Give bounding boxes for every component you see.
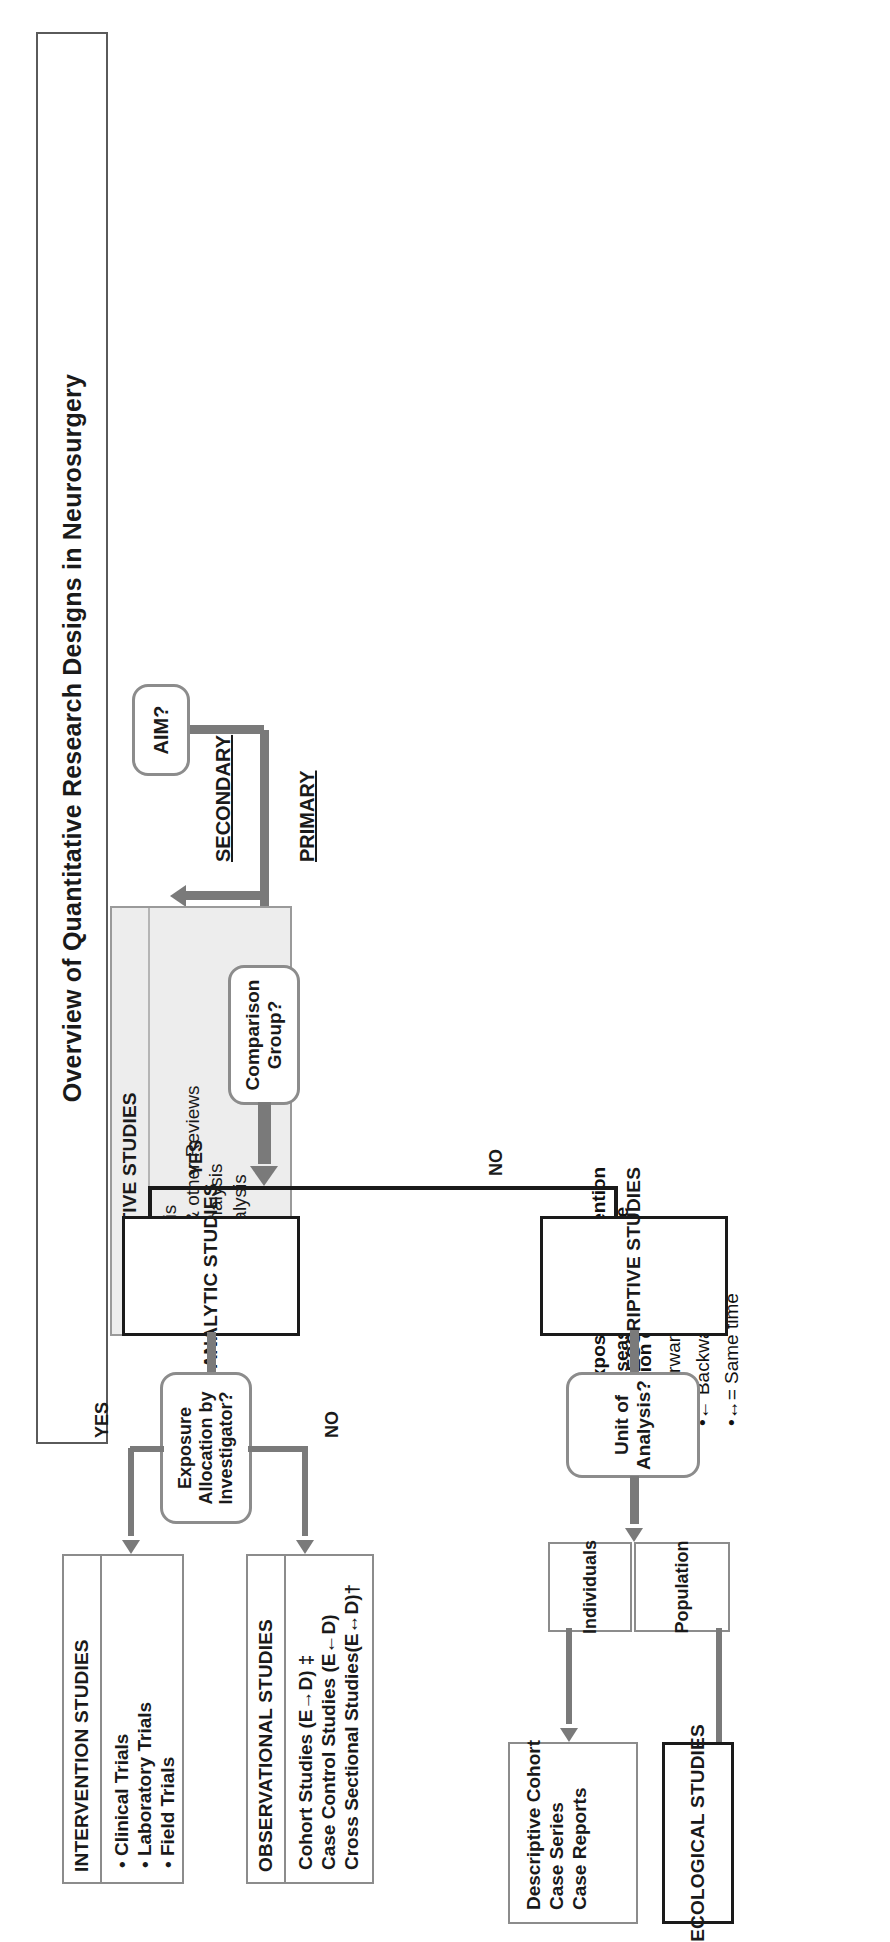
connector-analytic-exposure — [207, 1332, 216, 1374]
connector-individuals-h — [566, 1628, 572, 1724]
label-alloc-yes: YES — [92, 1402, 113, 1438]
observational-item: Cohort Studies (E→D) ‡ — [294, 1568, 317, 1870]
connector-aim-trunk — [190, 725, 264, 734]
node-comparison-group-label: Comparison Group? — [242, 976, 286, 1094]
connector-secondary-v — [186, 891, 264, 900]
arrow-individuals — [560, 1728, 578, 1742]
arrow-to-integrative — [170, 885, 186, 907]
branch-individuals[interactable]: Individuals — [548, 1542, 632, 1632]
node-unit-of-analysis-label: Unit of Analysis? — [611, 1380, 655, 1470]
connector-alloc-yes-v — [130, 1446, 164, 1452]
node-exposure-allocation[interactable]: Exposure Allocation by Investigator? — [160, 1372, 252, 1524]
connector-alloc-no-h — [302, 1448, 308, 1536]
branch-individuals-label: Individuals — [580, 1540, 601, 1634]
individual-design-item: Descriptive Cohort — [522, 1756, 545, 1910]
box-ecological-studies[interactable]: ECOLOGICAL STUDIES — [662, 1742, 734, 1924]
page-title-frame: Overview of Quantitative Research Design… — [36, 32, 108, 1444]
connector-secondary-h — [260, 730, 269, 896]
box-individual-designs[interactable]: Descriptive Cohort Case Series Case Repo… — [508, 1742, 638, 1924]
connector-alloc-no-v — [248, 1446, 308, 1452]
branch-population-label: Population — [672, 1541, 693, 1634]
connector-descriptive-unit — [630, 1330, 639, 1374]
connector-comparison-out — [258, 1102, 271, 1164]
label-comparison-no: NO — [486, 1149, 507, 1176]
arrow-comparison-out — [250, 1166, 278, 1186]
node-comparison-group[interactable]: Comparison Group? — [228, 965, 300, 1105]
intervention-item: Laboratory Trials — [133, 1568, 156, 1870]
arrow-alloc-yes — [122, 1540, 140, 1554]
label-alloc-no: NO — [322, 1411, 343, 1438]
label-comparison-yes: YES — [186, 1140, 207, 1176]
connector-alloc-yes-h — [128, 1448, 134, 1536]
label-secondary: SECONDARY — [212, 735, 235, 862]
connector-spine-analytic — [148, 1188, 152, 1218]
connector-unit-split — [630, 1476, 639, 1524]
observational-item: Case Control Studies (E←D) — [317, 1568, 340, 1870]
observational-item: Cross Sectional Studies(E↔D)† — [340, 1568, 363, 1870]
node-unit-of-analysis[interactable]: Unit of Analysis? — [566, 1372, 700, 1478]
connector-spine-descriptive — [614, 1188, 618, 1218]
box-analytic-studies[interactable]: ANALYTIC STUDIES — [122, 1216, 300, 1336]
box-ecological-heading: ECOLOGICAL STUDIES — [687, 1724, 709, 1942]
arrow-unit-split — [625, 1528, 643, 1542]
box-intervention-studies[interactable]: INTERVENTION STUDIES Clinical Trials Lab… — [62, 1554, 184, 1884]
arrow-alloc-no — [296, 1540, 314, 1554]
intervention-item: Clinical Trials — [110, 1568, 133, 1870]
page-title: Overview of Quantitative Research Design… — [58, 374, 87, 1102]
box-observational-studies[interactable]: OBSERVATIONAL STUDIES Cohort Studies (E→… — [246, 1554, 374, 1884]
branch-population[interactable]: Population — [634, 1542, 730, 1632]
box-descriptive-studies[interactable]: DESCRIPTIVE STUDIES — [540, 1216, 728, 1336]
intervention-item: Field Trials — [156, 1568, 179, 1870]
node-aim[interactable]: AIM? — [132, 684, 190, 776]
node-exposure-allocation-label: Exposure Allocation by Investigator? — [175, 1383, 237, 1513]
individual-design-item: Case Reports — [568, 1756, 591, 1910]
box-observational-heading: OBSERVATIONAL STUDIES — [248, 1556, 286, 1882]
individual-design-item: Case Series — [545, 1756, 568, 1910]
node-aim-label: AIM? — [150, 706, 173, 755]
box-intervention-heading: INTERVENTION STUDIES — [64, 1556, 102, 1882]
label-primary: PRIMARY — [296, 771, 319, 862]
